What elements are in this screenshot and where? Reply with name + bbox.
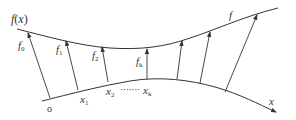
diagram-canvas: f(x) f x o f0 f1 f2 fk x1 x2 ······· xk	[0, 0, 296, 120]
label-f0: f0	[18, 40, 25, 53]
label-origin: o	[47, 104, 52, 114]
arrow-f0	[28, 33, 50, 98]
label-fx: f(x)	[11, 13, 28, 25]
label-origin-text: o	[47, 103, 52, 114]
label-x-axis-text: x	[269, 95, 274, 107]
label-x1-sub: 1	[85, 99, 89, 107]
label-fk: fk	[136, 56, 143, 69]
label-x2-sub: 2	[111, 91, 115, 99]
label-f1-sub: 1	[59, 49, 63, 57]
label-x1: x1	[80, 94, 88, 107]
label-f1: f1	[56, 44, 63, 57]
label-ellipsis: ·······	[120, 85, 140, 95]
diagram-svg	[0, 0, 296, 120]
label-ellipsis-text: ·······	[120, 84, 140, 95]
label-xk: xk	[143, 85, 151, 98]
label-f0-sub: 0	[21, 45, 25, 53]
arrow-7	[225, 15, 257, 92]
arrow-f1	[66, 41, 78, 90]
arrow-6	[200, 32, 210, 83]
label-fx-paren-close: )	[24, 12, 28, 26]
domain-curve-x	[42, 79, 276, 112]
label-fk-sub: k	[139, 61, 143, 69]
label-f2-sub: 2	[95, 55, 99, 63]
label-f2: f2	[92, 50, 99, 63]
label-f-curve-text: f	[229, 9, 232, 21]
label-x-axis: x	[269, 96, 274, 107]
label-x2: x2	[106, 86, 114, 99]
arrow-5	[177, 41, 182, 79]
label-f-curve: f	[229, 10, 232, 21]
arrow-f2	[102, 47, 108, 82]
label-xk-sub: k	[148, 90, 152, 98]
